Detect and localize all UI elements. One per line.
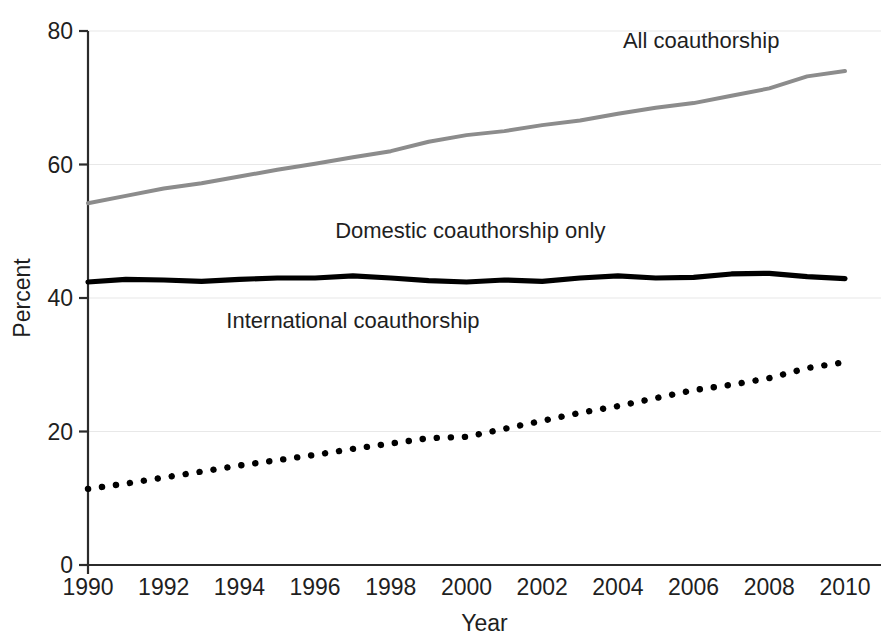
series-label-2: International coauthorship bbox=[226, 308, 479, 333]
y-axis-tick-labels: 020406080 bbox=[47, 18, 73, 578]
series-line-1 bbox=[88, 273, 845, 282]
x-tick-label-2010: 2010 bbox=[819, 574, 870, 600]
series-annotations: All coauthorshipDomestic coauthorship on… bbox=[226, 28, 779, 333]
x-axis-tick-labels: 1990199219941996199820002002200420062008… bbox=[62, 574, 870, 600]
x-tick-label-1990: 1990 bbox=[62, 574, 113, 600]
series-lines bbox=[88, 71, 845, 489]
series-label-1: Domestic coauthorship only bbox=[335, 218, 605, 243]
coauthorship-trend-chart: 020406080 199019921994199619982000200220… bbox=[0, 0, 886, 643]
series-label-0: All coauthorship bbox=[623, 28, 780, 53]
y-axis-title: Percent bbox=[9, 258, 35, 338]
y-tick-label-60: 60 bbox=[47, 152, 73, 178]
x-tick-label-1996: 1996 bbox=[290, 574, 341, 600]
chart-plot-area: 020406080 199019921994199619982000200220… bbox=[0, 0, 886, 643]
axis-ticks bbox=[79, 31, 88, 574]
y-tick-label-20: 20 bbox=[47, 419, 73, 445]
series-line-0 bbox=[88, 71, 845, 203]
x-tick-label-2006: 2006 bbox=[668, 574, 719, 600]
x-tick-label-2008: 2008 bbox=[744, 574, 795, 600]
x-tick-label-2002: 2002 bbox=[517, 574, 568, 600]
x-tick-label-1994: 1994 bbox=[214, 574, 265, 600]
x-axis-title: Year bbox=[461, 610, 508, 636]
x-tick-label-1992: 1992 bbox=[138, 574, 189, 600]
x-tick-label-1998: 1998 bbox=[365, 574, 416, 600]
y-tick-label-40: 40 bbox=[47, 285, 73, 311]
series-line-2 bbox=[88, 362, 845, 489]
x-tick-label-2000: 2000 bbox=[441, 574, 492, 600]
x-tick-label-2004: 2004 bbox=[592, 574, 643, 600]
y-tick-label-80: 80 bbox=[47, 18, 73, 44]
